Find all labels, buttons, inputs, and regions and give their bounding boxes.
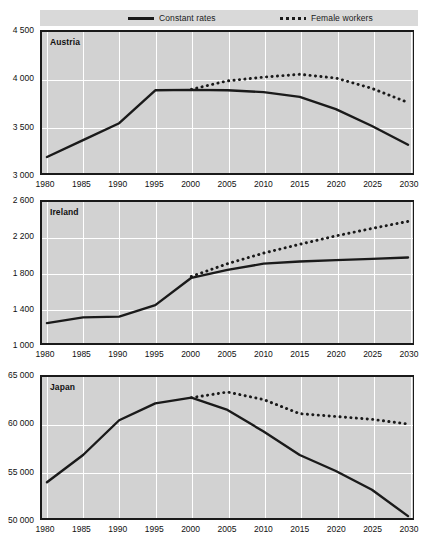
solid-line-swatch-icon [128,10,154,26]
x-axis-tick-label: 2005 [207,525,247,534]
x-axis-tick-label: 2010 [243,525,283,534]
line-female-workers [191,74,408,102]
x-axis-tick-label: 2020 [316,350,356,359]
x-axis-tick-label: 1985 [61,350,101,359]
x-axis-tick-label: 2025 [353,525,393,534]
x-axis-tick-label: 1990 [98,350,138,359]
x-axis-tick-label: 2000 [171,180,211,189]
y-axis-tick-label: 55 000 [0,468,34,477]
x-axis-tick-label: 2030 [389,525,423,534]
panel-title-ireland: Ireland [50,207,79,217]
x-axis-tick-label: 2015 [280,180,320,189]
y-axis-tick-label: 1 800 [0,269,34,278]
line-constant-rates [47,398,408,516]
series-lines-japan [42,377,413,518]
line-female-workers [191,221,408,276]
y-axis-tick-label: 2 600 [0,196,34,205]
plot-area-japan: Japan [40,375,414,520]
plot-area-ireland: Ireland [40,200,414,345]
y-axis-tick-label: 60 000 [0,419,34,428]
x-axis-tick-label: 2030 [389,350,423,359]
x-axis-tick-label: 2020 [316,525,356,534]
dotted-line-swatch-icon [280,10,306,26]
x-axis-tick-label: 2025 [353,350,393,359]
x-axis-tick-label: 1985 [61,180,101,189]
x-axis-tick-label: 1995 [134,350,174,359]
x-axis-labels-austria: 1980198519901995200020052010201520202025… [0,180,418,192]
x-axis-tick-label: 1990 [98,180,138,189]
x-axis-tick-label: 2030 [389,180,423,189]
x-axis-tick-label: 2025 [353,180,393,189]
x-axis-tick-label: 1995 [134,180,174,189]
y-axis-tick-label: 1 000 [0,341,34,350]
x-axis-labels-japan: 1980198519901995200020052010201520202025… [0,525,418,537]
x-axis-tick-label: 2010 [243,350,283,359]
legend-label-constant-rates: Constant rates [159,13,216,23]
x-axis-tick-label: 1995 [134,525,174,534]
plot-area-austria: Austria [40,30,414,175]
x-axis-tick-label: 2005 [207,180,247,189]
x-axis-tick-label: 1980 [25,525,65,534]
x-axis-tick-label: 2005 [207,350,247,359]
y-axis-tick-label: 65 000 [0,371,34,380]
y-axis-tick-label: 4 000 [0,74,34,83]
x-axis-tick-label: 2015 [280,525,320,534]
chart-legend: Constant rates Female workers [40,10,418,26]
x-axis-labels-ireland: 1980198519901995200020052010201520202025… [0,350,418,362]
line-constant-rates [47,258,408,324]
x-axis-tick-label: 1980 [25,350,65,359]
y-axis-tick-label: 1 400 [0,305,34,314]
x-axis-tick-label: 1985 [61,525,101,534]
series-lines-ireland [42,202,413,343]
x-axis-tick-label: 2000 [171,350,211,359]
y-axis-tick-label: 2 200 [0,232,34,241]
x-axis-tick-label: 2010 [243,180,283,189]
x-axis-tick-label: 1990 [98,525,138,534]
legend-item-female-workers: Female workers [280,10,373,26]
line-constant-rates [47,90,408,157]
y-axis-tick-label: 4 500 [0,26,34,35]
legend-label-female-workers: Female workers [311,13,373,23]
x-axis-tick-label: 2020 [316,180,356,189]
panel-title-japan: Japan [50,382,75,392]
x-axis-tick-label: 1980 [25,180,65,189]
legend-item-constant-rates: Constant rates [128,10,216,26]
y-axis-tick-label: 50 000 [0,516,34,525]
y-axis-tick-label: 3 500 [0,123,34,132]
y-axis-tick-label: 3 000 [0,171,34,180]
panel-title-austria: Austria [50,37,80,47]
x-axis-tick-label: 2000 [171,525,211,534]
x-axis-tick-label: 2015 [280,350,320,359]
series-lines-austria [42,32,413,173]
